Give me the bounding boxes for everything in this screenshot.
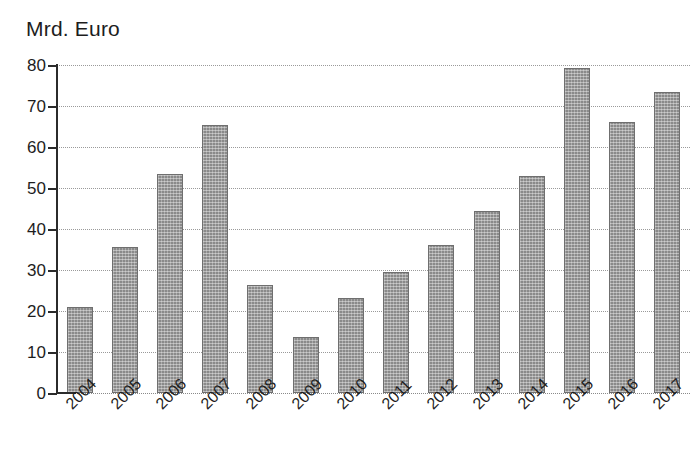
- y-axis-tick-label: 40: [2, 221, 46, 238]
- y-axis-tick-mark: [48, 147, 57, 149]
- y-axis-tick-mark: [48, 311, 57, 313]
- bar-2011: [383, 272, 409, 393]
- y-axis-tick-label: 50: [2, 180, 46, 197]
- y-axis-tick-label: 20: [2, 303, 46, 320]
- bar-2016: [609, 122, 635, 393]
- bar-2013: [474, 211, 500, 393]
- y-axis-tick-mark: [48, 65, 57, 67]
- y-axis-tick-label: 80: [2, 57, 46, 74]
- y-axis-tick-mark: [48, 188, 57, 190]
- bar-2014: [519, 176, 545, 393]
- gridline: [57, 311, 690, 312]
- bar-chart-figure: Mrd. Euro 01020304050607080 200420052006…: [0, 0, 694, 455]
- bar-2005: [112, 247, 138, 393]
- gridline: [57, 147, 690, 148]
- bar-2015: [564, 68, 590, 393]
- gridline: [57, 188, 690, 189]
- bar-2012: [428, 245, 454, 393]
- y-axis-tick-label: 70: [2, 98, 46, 115]
- bar-2007: [202, 125, 228, 393]
- gridline: [57, 106, 690, 107]
- y-axis-tick-labels: 01020304050607080: [0, 0, 46, 455]
- y-axis-tick-mark: [48, 393, 57, 395]
- y-axis-tick-label: 0: [2, 385, 46, 402]
- y-axis-tick-mark: [48, 229, 57, 231]
- gridline: [57, 229, 690, 230]
- y-axis-tick-label: 60: [2, 139, 46, 156]
- gridline: [57, 352, 690, 353]
- bar-2006: [157, 174, 183, 393]
- gridline: [57, 270, 690, 271]
- y-axis-tick-mark: [48, 352, 57, 354]
- y-axis-tick-label: 30: [2, 262, 46, 279]
- gridline: [57, 65, 690, 66]
- bar-2017: [654, 92, 680, 393]
- y-axis-tick-label: 10: [2, 344, 46, 361]
- y-axis-tick-mark: [48, 270, 57, 272]
- x-axis-tick-labels: 2004200520062007200820092010201120122013…: [57, 393, 690, 455]
- y-axis-tick-mark: [48, 106, 57, 108]
- plot-area: [57, 65, 690, 393]
